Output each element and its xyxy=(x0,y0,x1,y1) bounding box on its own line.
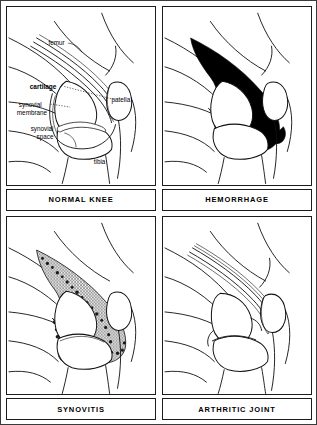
panel-normal-knee: femur cartilage synovial membrane synovi… xyxy=(6,6,156,211)
label-patella: patella xyxy=(112,96,131,104)
label-femur: femur xyxy=(48,39,65,46)
panel-arthritic-joint: ARTHRITIC JOINT xyxy=(162,216,312,421)
label-synovial-space-line2: space xyxy=(37,133,54,141)
arthritic-joint-svg xyxy=(163,217,311,395)
panel-synovitis: SYNOVITIS xyxy=(6,216,156,421)
caption-normal-knee: NORMAL KNEE xyxy=(6,189,156,211)
panel-hemorrhage: HEMORRHAGE xyxy=(162,6,312,211)
caption-arthritic-joint: ARTHRITIC JOINT xyxy=(162,398,312,420)
arthritic-joint-illustration xyxy=(162,216,312,396)
label-synovial-membrane-line2: membrane xyxy=(17,109,48,116)
caption-arthritic-joint-text: ARTHRITIC JOINT xyxy=(198,405,275,414)
normal-knee-illustration: femur cartilage synovial membrane synovi… xyxy=(6,6,156,186)
normal-knee-svg: femur cartilage synovial membrane synovi… xyxy=(7,7,155,185)
caption-synovitis-text: SYNOVITIS xyxy=(57,405,105,414)
caption-hemorrhage: HEMORRHAGE xyxy=(162,189,312,211)
panel-grid: femur cartilage synovial membrane synovi… xyxy=(6,6,312,420)
label-cartilage: cartilage xyxy=(30,82,57,90)
hemorrhage-illustration xyxy=(162,6,312,186)
hemorrhage-svg xyxy=(163,7,311,185)
label-synovial-space-line1: synovial xyxy=(31,125,54,133)
caption-hemorrhage-text: HEMORRHAGE xyxy=(205,195,269,204)
synovitis-illustration xyxy=(6,216,156,396)
label-tibia: tibia xyxy=(94,158,106,165)
knee-pathology-figure: femur cartilage synovial membrane synovi… xyxy=(0,0,317,425)
caption-normal-knee-text: NORMAL KNEE xyxy=(48,195,113,204)
label-synovial-membrane-line1: synovial xyxy=(19,101,42,109)
caption-synovitis: SYNOVITIS xyxy=(6,398,156,420)
synovitis-svg xyxy=(7,217,155,395)
